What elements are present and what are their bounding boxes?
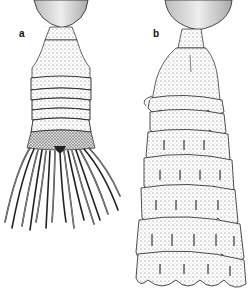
panel-a-upper-body [32,40,90,78]
scientific-figure: a b [0,0,248,306]
panel-a-bulb [34,0,88,28]
panel-a-neck [45,27,77,40]
panel-label-a: a [19,28,25,39]
panel-b-cap [152,48,220,100]
panel-b-neck [178,29,204,48]
panel-a-rings [31,76,91,132]
panel-b-drawing [136,0,246,287]
panel-a-tentacles [5,148,120,230]
panel-b-tiers [136,95,246,287]
panel-label-b: b [153,28,159,39]
illustration-canvas [0,0,248,306]
panel-b-bulb [165,0,232,30]
